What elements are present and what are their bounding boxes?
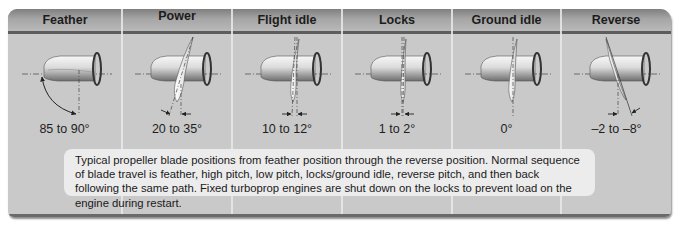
propeller-blade-positions-figure: Feather Power Flight idle Locks Ground i… bbox=[8, 9, 671, 217]
panel-ground-idle: 0° bbox=[453, 34, 560, 154]
figure-caption: Typical propeller blade positions from f… bbox=[64, 149, 595, 196]
bottom-border bbox=[8, 214, 671, 217]
column-title-flight-idle: Flight idle bbox=[232, 9, 342, 31]
propeller-flight-idle-icon bbox=[233, 34, 341, 129]
panel-locks: 1 to 2° bbox=[343, 34, 451, 154]
panel-power: 20 to 35° bbox=[123, 34, 231, 154]
panel-flight-idle: 10 to 12° bbox=[233, 34, 341, 154]
angle-label-locks: 1 to 2° bbox=[343, 122, 451, 136]
angle-label-ground-idle: 0° bbox=[453, 122, 560, 136]
column-title-power: Power bbox=[122, 9, 232, 31]
column-title-locks: Locks bbox=[342, 9, 452, 31]
angle-label-feather: 85 to 90° bbox=[8, 122, 121, 136]
angle-label-reverse: –2 to –8° bbox=[562, 122, 671, 136]
angle-label-power: 20 to 35° bbox=[123, 122, 231, 136]
propeller-locks-icon bbox=[343, 34, 451, 129]
angle-label-flight-idle: 10 to 12° bbox=[233, 122, 341, 136]
propeller-feather-icon bbox=[8, 34, 121, 129]
panel-reverse: –2 to –8° bbox=[562, 34, 671, 154]
panel-feather: 85 to 90° bbox=[8, 34, 121, 154]
propeller-power-icon bbox=[123, 34, 231, 129]
column-title-reverse: Reverse bbox=[561, 9, 671, 31]
column-title-ground-idle: Ground idle bbox=[452, 9, 561, 31]
propeller-ground-idle-icon bbox=[453, 34, 560, 129]
column-title-feather: Feather bbox=[8, 9, 122, 31]
propeller-reverse-icon bbox=[562, 34, 671, 129]
